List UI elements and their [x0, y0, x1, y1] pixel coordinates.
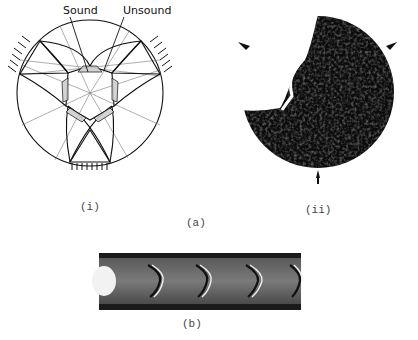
chevron-strip — [0, 0, 418, 340]
label-b: (b) — [182, 318, 202, 330]
